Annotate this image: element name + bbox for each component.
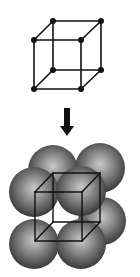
lattice-point — [78, 86, 84, 92]
down-arrow-icon — [60, 108, 74, 136]
simple-cubic-diagram — [0, 0, 140, 277]
lattice-point-cube — [31, 18, 104, 92]
lattice-point — [78, 37, 84, 43]
sphere-front-bottom-right — [56, 219, 106, 269]
diagram-canvas — [0, 0, 140, 277]
lattice-point — [31, 37, 37, 43]
cube-edge — [81, 21, 101, 40]
cube-edge — [81, 70, 101, 89]
sphere-front-bottom-left — [9, 219, 59, 269]
lattice-point — [98, 67, 104, 73]
cube-edge — [34, 21, 53, 40]
lattice-point — [98, 18, 104, 24]
lattice-point — [31, 86, 37, 92]
lattice-point — [50, 67, 56, 73]
packed-sphere-cube — [9, 143, 126, 269]
lattice-point — [50, 18, 56, 24]
cube-edge — [34, 70, 53, 89]
